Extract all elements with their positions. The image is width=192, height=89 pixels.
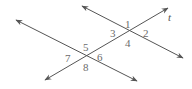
diagram-svg: t 1 2 3 4 5 6 7 8 xyxy=(0,0,192,89)
transversal-label: t xyxy=(168,11,172,23)
diagram-canvas: t 1 2 3 4 5 6 7 8 xyxy=(0,0,192,89)
angle-3-label: 3 xyxy=(110,27,116,39)
angle-6-label: 6 xyxy=(97,51,103,63)
angle-8-label: 8 xyxy=(83,61,89,73)
angle-2-label: 2 xyxy=(143,27,149,39)
angle-7-label: 7 xyxy=(65,52,71,64)
angle-5-label: 5 xyxy=(83,41,89,53)
lower-line xyxy=(16,20,137,81)
angle-4-label: 4 xyxy=(125,37,131,49)
angle-1-label: 1 xyxy=(125,18,131,30)
